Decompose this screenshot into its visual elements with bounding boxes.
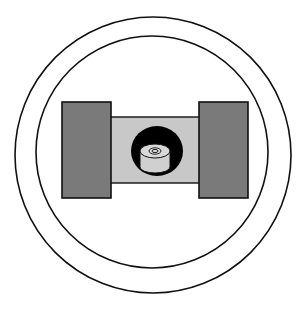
right-block (199, 102, 248, 198)
left-block (62, 102, 111, 198)
cylinder-top (140, 144, 170, 158)
cylinder (140, 144, 170, 173)
diagram-canvas (0, 0, 304, 310)
